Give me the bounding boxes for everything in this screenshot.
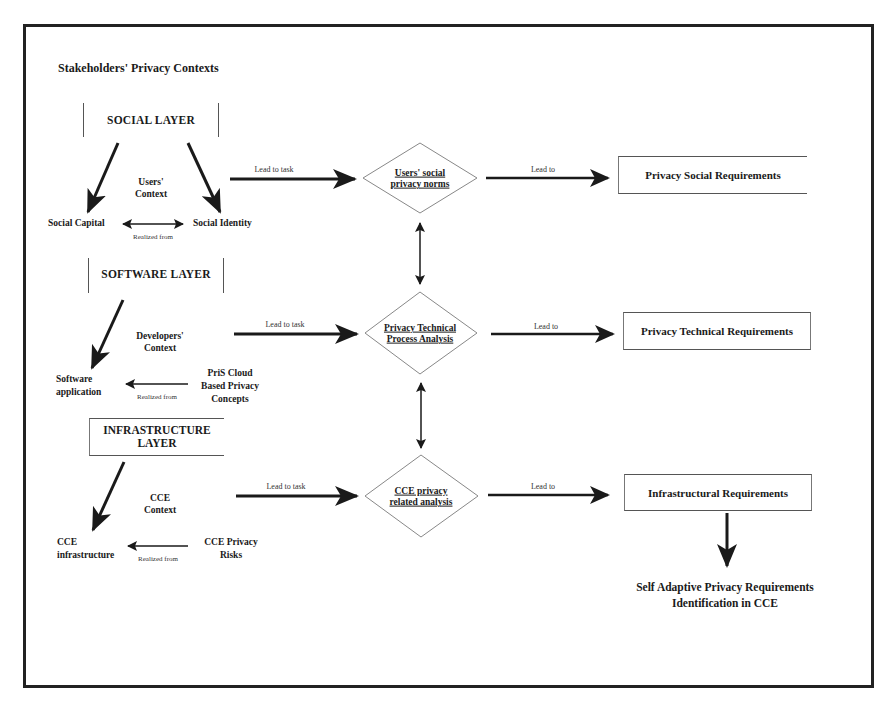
arrow-infra-to-cce [93, 462, 124, 530]
analysis-users-norms-line1: Users' social [391, 168, 450, 179]
pris-concepts-line2: Based Privacy [201, 381, 259, 392]
requirement-box-infrastructural: Infrastructural Requirements [624, 474, 812, 511]
cce-infrastructure-line1: CCE [57, 537, 77, 548]
analysis-technical-line1: Privacy Technical [384, 323, 456, 334]
cce-infrastructure-line2: infrastructure [57, 550, 114, 561]
social-capital-node: Social Capital [48, 218, 105, 229]
arrow-software-to-application [92, 300, 123, 368]
infrastructure-layer-box: INFRASTRUCTURE LAYER [89, 418, 224, 456]
requirement-technical-label: Privacy Technical Requirements [641, 325, 793, 337]
analysis-users-norms-line2: privacy norms [391, 179, 450, 190]
infrastructure-layer-label-line1: INFRASTRUCTURE [103, 424, 210, 437]
requirement-box-technical: Privacy Technical Requirements [623, 312, 811, 350]
software-layer-right-bar [223, 258, 224, 293]
lead-to-task-label-1: Lead to task [254, 165, 293, 174]
requirement-box-social: Privacy Social Requirements [618, 156, 807, 194]
analysis-cce-line2: related analysis [390, 497, 453, 508]
analysis-technical-process: Privacy Technical Process Analysis [384, 323, 456, 346]
outcome-line1: Self Adaptive Privacy Requirements [636, 581, 814, 594]
cce-risks-line2: Risks [220, 550, 242, 561]
diagram-title: Stakeholders' Privacy Contexts [58, 62, 219, 76]
social-layer-label: SOCIAL LAYER [107, 114, 195, 127]
lead-to-label-3: Lead to [531, 482, 555, 491]
software-application-line2: application [56, 387, 101, 398]
users-context-line1: Users' [138, 177, 163, 188]
requirement-infrastructural-label: Infrastructural Requirements [648, 487, 788, 499]
social-layer-left-bar [83, 103, 84, 137]
lead-to-label-2: Lead to [534, 322, 558, 331]
social-layer-right-bar [218, 103, 219, 137]
lead-to-task-label-2: Lead to task [265, 320, 304, 329]
diagram-canvas: Stakeholders' Privacy Contexts SOCIAL LA… [0, 0, 886, 709]
outcome-line2: Identification in CCE [672, 597, 778, 610]
analysis-technical-line2: Process Analysis [384, 334, 456, 345]
pris-concepts-line3: Concepts [211, 394, 248, 405]
analysis-cce-line1: CCE privacy [390, 486, 453, 497]
software-layer-label: SOFTWARE LAYER [101, 268, 210, 281]
social-relation-label: Realized from [133, 233, 173, 241]
analysis-users-norms: Users' social privacy norms [391, 168, 450, 191]
cce-context-line1: CCE [150, 493, 170, 504]
arrow-social-to-identity [188, 143, 220, 212]
social-identity-node: Social Identity [193, 218, 252, 229]
infrastructure-relation-label: Realized from [138, 555, 178, 563]
software-relation-label: Realized from [137, 393, 177, 401]
arrow-social-to-capital [88, 143, 118, 212]
developers-context-line2: Context [144, 343, 176, 354]
cce-risks-line1: CCE Privacy [204, 537, 258, 548]
requirement-social-label: Privacy Social Requirements [645, 169, 780, 181]
analysis-cce-privacy: CCE privacy related analysis [390, 486, 453, 509]
users-context-line2: Context [135, 189, 167, 200]
infrastructure-layer-label-line2: LAYER [137, 437, 176, 450]
pris-concepts-line1: PriS Cloud [207, 368, 252, 379]
software-application-line1: Software [56, 374, 92, 385]
cce-context-line2: Context [144, 505, 176, 516]
lead-to-label-1: Lead to [531, 165, 555, 174]
software-layer-left-bar [88, 258, 89, 293]
developers-context-line1: Developers' [136, 331, 184, 342]
lead-to-task-label-3: Lead to task [266, 482, 305, 491]
